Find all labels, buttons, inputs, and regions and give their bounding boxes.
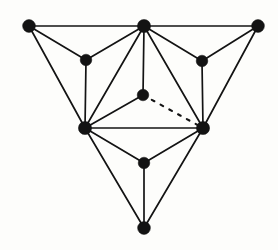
graph-figure: Planar graph diagram — [0, 0, 278, 250]
graph-edge-v2-v5 — [144, 26, 202, 61]
graph-edge-v3-v8 — [203, 26, 258, 128]
graph-vertex-v10 — [138, 222, 151, 235]
graph-vertex-v7 — [78, 121, 91, 134]
graph-vertex-v8 — [196, 121, 209, 134]
graph-vertex-v4 — [80, 54, 92, 66]
graph-vertex-v2 — [137, 19, 150, 32]
graph-edge-v3-v5 — [202, 26, 258, 61]
graph-vertex-v3 — [252, 20, 265, 33]
graph-edge-v2-v7 — [85, 26, 144, 128]
graph-vertex-v9 — [138, 157, 150, 169]
edge-layer — [29, 26, 258, 228]
graph-vertex-v5 — [196, 55, 208, 67]
graph-edge-v8-v10 — [144, 128, 203, 228]
graph-edge-v2-v6 — [143, 26, 144, 95]
graph-vertex-v6 — [137, 89, 149, 101]
graph-edge-v2-v4 — [86, 26, 144, 60]
graph-canvas — [0, 0, 278, 250]
graph-edge-v1-v7 — [29, 26, 85, 128]
graph-edge-v7-v10 — [85, 128, 144, 228]
graph-edge-v5-v8 — [202, 61, 203, 128]
graph-edge-v2-v8 — [144, 26, 203, 128]
graph-edge-v4-v7 — [85, 60, 86, 128]
graph-edge-v8-v9 — [144, 128, 203, 163]
graph-vertex-v1 — [23, 20, 36, 33]
graph-edge-v7-v9 — [85, 128, 144, 163]
